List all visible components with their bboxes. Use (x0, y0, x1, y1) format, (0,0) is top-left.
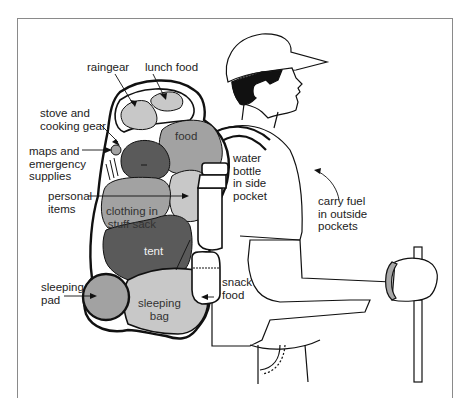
label-stove-cooking-gear: stove and cooking gear (40, 107, 106, 132)
lunch-food-item (151, 92, 183, 111)
hiker-head (226, 34, 327, 128)
label-food: food (175, 130, 197, 143)
label-personal-items: personal items (48, 190, 92, 215)
label-raingear: raingear (87, 61, 129, 74)
sleeping-pad-item (83, 274, 129, 320)
label-carry-fuel: carry fuel in outside pockets (318, 195, 367, 233)
maps-emergency-item (111, 145, 121, 155)
label-snack-food: snack food (222, 276, 252, 301)
label-sleeping-bag: sleeping bag (138, 297, 181, 322)
label-clothing: clothing in stuff sack (106, 205, 158, 230)
stove-cooking-gear-item (121, 140, 170, 181)
trekking-pole (386, 247, 438, 382)
label-sleeping-pad: sleeping pad (41, 281, 84, 306)
label-lunch-food: lunch food (145, 61, 198, 74)
label-tent: tent (144, 245, 163, 258)
label-maps-emergency-supplies: maps and emergency supplies (29, 145, 86, 183)
label-water-bottle: water bottle in side pocket (233, 152, 267, 202)
